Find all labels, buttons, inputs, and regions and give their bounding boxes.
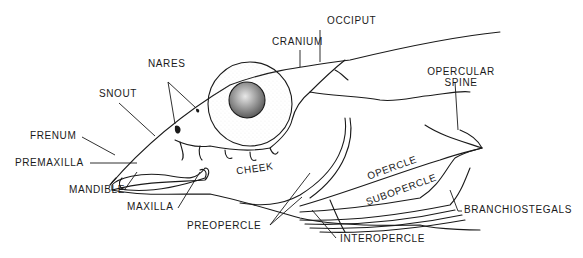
label-opercular-line1: OPERCULAR bbox=[427, 66, 495, 77]
label-opercular-line2: SPINE bbox=[444, 77, 477, 88]
label-maxilla: MAXILLA bbox=[127, 201, 173, 212]
label-mandible: MANDIBLE bbox=[69, 184, 125, 195]
leader-mandible bbox=[125, 172, 137, 189]
leader-frenum bbox=[82, 137, 115, 155]
label-frenum: FRENUM bbox=[30, 130, 76, 141]
label-opercular-spine: OPERCULAR SPINE bbox=[416, 66, 506, 88]
label-snout: SNOUT bbox=[99, 88, 137, 99]
leader-opercular-spine bbox=[455, 82, 458, 130]
dorsal-profile bbox=[110, 32, 500, 185]
fish-head-diagram: OCCIPUT CRANIUM NARES SNOUT OPERCULAR SP… bbox=[0, 0, 583, 258]
mandible-shape bbox=[120, 169, 207, 190]
label-preopercle: PREOPERCLE bbox=[187, 220, 261, 231]
label-interopercle: INTEROPERCLE bbox=[340, 233, 425, 244]
eye-pupil bbox=[229, 82, 265, 118]
interopercle-shape bbox=[330, 200, 345, 232]
nares-anterior bbox=[175, 125, 181, 133]
label-nares: NARES bbox=[148, 58, 185, 69]
label-premaxilla: PREMAXILLA bbox=[15, 157, 84, 168]
leader-nares-anterior bbox=[168, 82, 175, 124]
leader-branchiostegals bbox=[450, 190, 462, 211]
leader-preopercle-1 bbox=[270, 173, 310, 225]
label-occiput: OCCIPUT bbox=[327, 15, 376, 26]
leader-nares-posterior bbox=[168, 82, 196, 108]
label-branchiostegals: BRANCHIOSTEGALS bbox=[464, 204, 572, 215]
leader-snout bbox=[119, 103, 155, 136]
nares-posterior bbox=[196, 109, 199, 113]
label-cranium: CRANIUM bbox=[272, 36, 323, 47]
